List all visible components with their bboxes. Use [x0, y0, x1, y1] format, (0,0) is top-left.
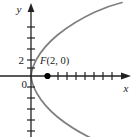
- y-axis-label: y: [16, 3, 22, 15]
- y-axis-arrowhead: [28, 3, 35, 12]
- focus-label-coordinates: (2, 0): [46, 55, 69, 67]
- parabola-curve-group: [31, 3, 122, 138]
- origin-label: 0: [22, 78, 28, 90]
- parabola-figure: y x 2 0 F(2, 0): [0, 0, 135, 137]
- focus-point-label: F(2, 0): [39, 55, 70, 67]
- x-axis-group: [0, 72, 131, 80]
- parabola-lower-branch: [31, 76, 122, 137]
- y-tick-label-2: 2: [19, 54, 25, 66]
- y-axis-group: [27, 3, 35, 137]
- coordinate-plane-svg: y x 2 0 F(2, 0): [0, 0, 135, 137]
- x-axis-label: x: [123, 82, 129, 94]
- focus-point-marker: [44, 73, 50, 79]
- x-axis-arrowhead: [121, 73, 131, 80]
